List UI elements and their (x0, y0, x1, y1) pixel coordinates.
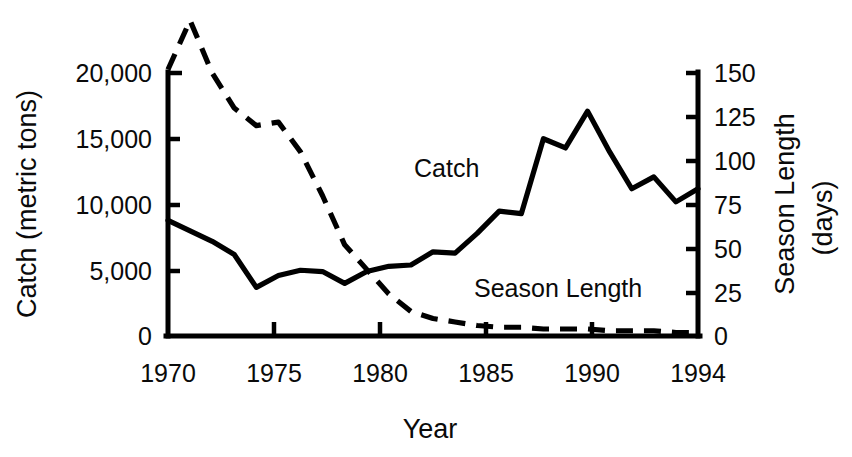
right-tick-label-75: 75 (714, 191, 742, 219)
right-tick-label-150: 150 (714, 59, 756, 87)
right-tick-label-50: 50 (714, 235, 742, 263)
series-line-catch (168, 111, 698, 287)
series-annotation-season-length: Season Length (474, 274, 642, 302)
right-tick-label-0: 0 (714, 322, 728, 350)
bottom-tick-label-1980: 1980 (352, 359, 408, 387)
left-tick-label-0: 0 (138, 322, 152, 350)
right-axis-title-line2: (days) (808, 180, 838, 255)
right-tick-labels: 150 125 100 75 50 25 0 (714, 59, 756, 350)
bottom-tick-label-1994: 1994 (670, 359, 726, 387)
bottom-tick-label-1975: 1975 (246, 359, 302, 387)
bottom-tick-label-1990: 1990 (564, 359, 620, 387)
series-annotation-catch: Catch (414, 154, 479, 182)
right-tick-label-25: 25 (714, 279, 742, 307)
bottom-tick-label-1970: 1970 (140, 359, 196, 387)
left-tick-label-20000: 20,000 (76, 59, 152, 87)
left-tick-label-15000: 15,000 (76, 125, 152, 153)
chart-figure: 20,000 15,000 10,000 5,000 0 150 125 100… (0, 0, 852, 457)
left-tick-label-5000: 5,000 (89, 257, 152, 285)
right-tick-label-100: 100 (714, 147, 756, 175)
chart-canvas: 20,000 15,000 10,000 5,000 0 150 125 100… (0, 0, 852, 457)
bottom-tick-label-1985: 1985 (458, 359, 514, 387)
right-tick-label-125: 125 (714, 103, 756, 131)
left-axis-title: Catch (metric tons) (12, 90, 42, 318)
bottom-tick-labels: 1970 1975 1980 1985 1990 1994 (140, 359, 726, 387)
left-tick-labels: 20,000 15,000 10,000 5,000 0 (76, 59, 152, 350)
right-axis-title-line1: Season Length (770, 113, 800, 295)
left-tick-label-10000: 10,000 (76, 191, 152, 219)
bottom-axis-title: Year (403, 414, 458, 444)
